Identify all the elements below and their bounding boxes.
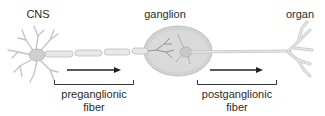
postganglionic-direction-arrow: [210, 67, 263, 73]
postganglionic-bracket: [198, 80, 277, 85]
postganglionic-fiber-label: postganglionic fiber: [196, 88, 278, 113]
preganglionic-fiber-label: preganglionic fiber: [54, 88, 134, 113]
preganglionic-bracket: [55, 80, 134, 85]
preganglionic-axon: [45, 48, 148, 57]
postganglionic-label-line1: postganglionic: [196, 88, 278, 101]
ganglion-label: ganglion: [140, 8, 190, 21]
postganglionic-label-line2: fiber: [196, 101, 278, 114]
cns-label: CNS: [22, 8, 54, 21]
organ-terminal-branches: [288, 22, 312, 76]
organ-label: organ: [283, 8, 317, 21]
cns-cell-body: [29, 49, 45, 61]
autonomic-pathway-diagram: CNS ganglion organ preganglionic fiber p…: [0, 0, 325, 116]
preganglionic-direction-arrow: [67, 67, 121, 73]
preganglionic-label-line1: preganglionic: [54, 88, 134, 101]
postganglionic-axon: [192, 51, 290, 52]
preganglionic-label-line2: fiber: [54, 101, 134, 114]
